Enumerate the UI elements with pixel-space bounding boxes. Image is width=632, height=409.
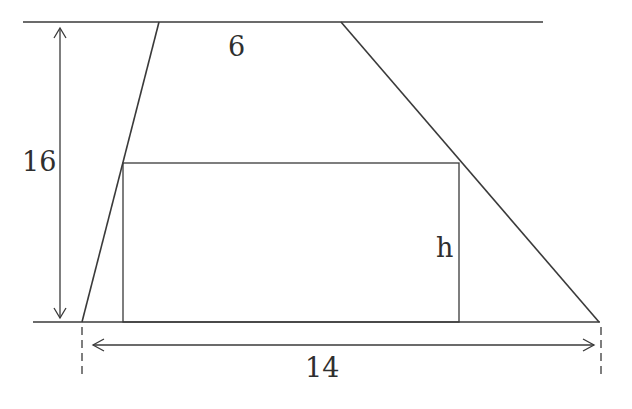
inscribed-rectangle — [123, 163, 459, 322]
top-base-label: 6 — [228, 33, 245, 60]
height-label: 16 — [22, 148, 56, 175]
trapezoid-left-side — [82, 22, 159, 322]
diagram-svg — [0, 0, 632, 409]
bottom-base-label: 14 — [305, 354, 339, 381]
base-dimension-arrow — [93, 339, 594, 351]
diagram-canvas: 6 16 h 14 — [0, 0, 632, 409]
trapezoid-right-side — [341, 22, 599, 322]
rectangle-height-label: h — [436, 234, 453, 261]
